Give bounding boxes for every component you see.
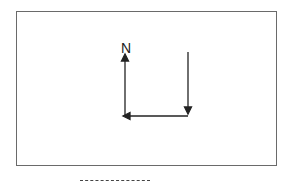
dashed-scale-line	[80, 180, 150, 181]
north-label: N	[121, 41, 131, 55]
path-arrows	[0, 0, 287, 187]
down-arrow-icon	[185, 107, 192, 114]
left-arrow-icon	[123, 113, 130, 120]
